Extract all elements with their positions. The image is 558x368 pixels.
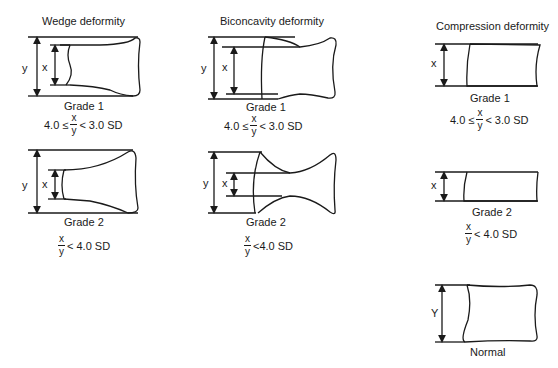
fraction: xy: [476, 108, 483, 131]
compression-grade1-vertebra: [435, 44, 540, 86]
normal-y-label: Y: [431, 307, 438, 319]
comp-g2-grade: Grade 2: [472, 206, 512, 218]
denominator: y: [245, 247, 250, 257]
denominator: y: [59, 247, 64, 257]
wedge-g1-formula: 4.0 ≤ xy < 3.0 SD: [44, 113, 123, 136]
fraction: xy: [250, 114, 257, 137]
bicon-g2-y-label: y: [203, 177, 209, 189]
wedge-g1-x-label: x: [42, 61, 48, 73]
comp-g1-grade: Grade 1: [470, 92, 510, 104]
formula-suffix: < 4.0 SD: [474, 228, 517, 240]
formula-suffix: < 3.0 SD: [259, 120, 302, 132]
comp-g2-formula: xy < 4.0 SD: [465, 222, 517, 245]
formula-suffix: <4.0 SD: [253, 240, 293, 252]
formula-suffix: < 3.0 SD: [485, 114, 528, 126]
normal-vertebra: [435, 285, 537, 342]
fraction: xy: [70, 113, 77, 136]
numerator: x: [59, 234, 64, 244]
wedge-g1-y-label: y: [22, 62, 28, 74]
denominator: y: [466, 235, 471, 245]
wedge-g2-formula: xy < 4.0 SD: [58, 234, 110, 257]
bicon-g1-x-label: x: [222, 61, 228, 73]
fraction: xy: [244, 234, 251, 257]
comp-g1-x-label: x: [431, 57, 437, 69]
bicon-g2-x-label: x: [222, 177, 228, 189]
bicon-g2-grade: Grade 2: [246, 216, 286, 228]
formula-prefix: 4.0 ≤: [44, 119, 68, 131]
comp-g2-x-label: x: [431, 179, 437, 191]
vertebra-diagrams: [0, 0, 558, 368]
formula-suffix: < 4.0 SD: [67, 240, 110, 252]
normal-grade: Normal: [470, 346, 505, 358]
formula-prefix: 4.0 ≤: [224, 120, 248, 132]
wedge-g2-grade: Grade 2: [64, 216, 104, 228]
numerator: x: [251, 114, 256, 124]
bicon-g2-formula: xy <4.0 SD: [244, 234, 293, 257]
wedge-g1-grade: Grade 1: [64, 100, 104, 112]
denominator: y: [251, 127, 256, 137]
formula-suffix: < 3.0 SD: [79, 119, 122, 131]
bicon-g1-grade: Grade 1: [246, 101, 286, 113]
wedge-g2-y-label: y: [22, 179, 28, 191]
denominator: y: [477, 121, 482, 131]
fraction: xy: [58, 234, 65, 257]
fraction: xy: [465, 222, 472, 245]
formula-prefix: 4.0 ≤: [450, 114, 474, 126]
denominator: y: [71, 126, 76, 136]
numerator: x: [466, 222, 471, 232]
numerator: x: [477, 108, 482, 118]
compression-grade2-vertebra: [435, 172, 538, 201]
bicon-g1-formula: 4.0 ≤ xy < 3.0 SD: [224, 114, 303, 137]
numerator: x: [71, 113, 76, 123]
wedge-g2-x-label: x: [42, 178, 48, 190]
numerator: x: [245, 234, 250, 244]
bicon-g1-y-label: y: [201, 62, 207, 74]
comp-g1-formula: 4.0 ≤ xy < 3.0 SD: [450, 108, 529, 131]
